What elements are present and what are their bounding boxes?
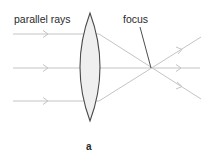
refracted-ray-bottom [99, 37, 201, 101]
convex-lens [80, 13, 100, 121]
focus-label: focus [123, 13, 148, 25]
incoming-rays [13, 31, 200, 105]
refracted-ray-top [99, 34, 201, 99]
parallel-rays-label: parallel rays [14, 13, 71, 25]
focus-pointer-line [140, 27, 151, 68]
figure-caption: a [86, 141, 92, 152]
